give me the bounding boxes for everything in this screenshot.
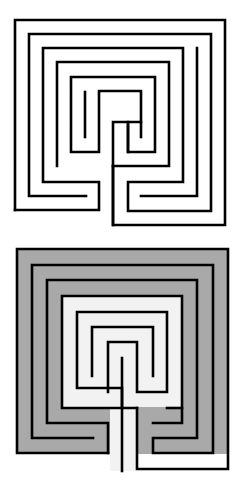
labyrinth-shaded xyxy=(0,240,240,483)
wall-centre xyxy=(113,122,128,225)
labyrinth-outline xyxy=(0,0,240,240)
labyrinth-walls xyxy=(15,20,225,225)
